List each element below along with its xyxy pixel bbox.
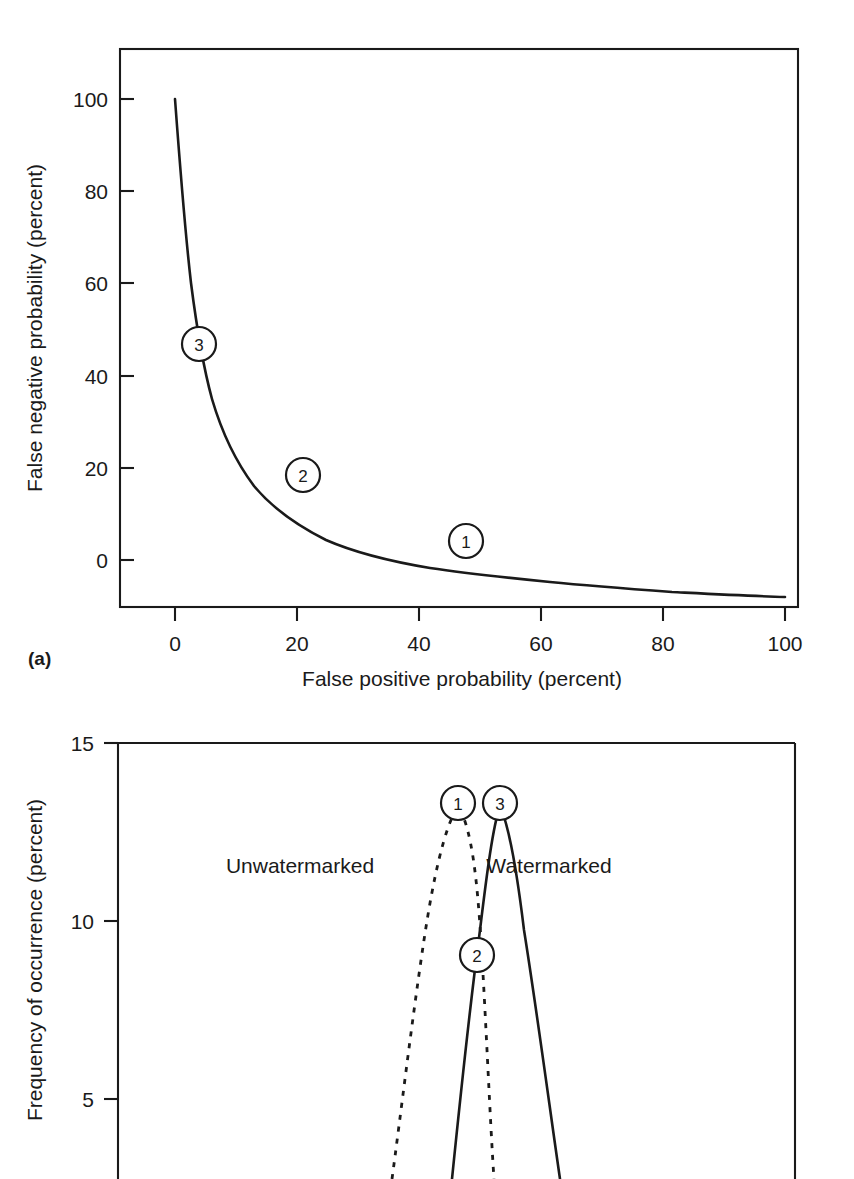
y-axis-title-b: Frequency of occurrence (percent) (23, 799, 46, 1121)
marker-1-label-b: 1 (453, 795, 462, 814)
unwatermarked-label: Unwatermarked (226, 854, 374, 877)
marker-2-panel-b: 2 (460, 938, 494, 972)
y-tick-label-b-5: 5 (82, 1088, 94, 1111)
marker-3-label-b: 3 (495, 795, 504, 814)
figure-container: 100 80 60 40 20 0 0 20 40 60 80 100 (0, 0, 854, 1179)
y-tick-label-b-15: 15 (71, 732, 94, 755)
watermarked-label: Watermarked (486, 854, 611, 877)
unwatermarked-curve (392, 806, 494, 1179)
y-tick-label-b-10: 10 (71, 910, 94, 933)
panel-b: 15 10 5 Frequency of occurrence (percent… (0, 0, 854, 1179)
marker-2-label-b: 2 (472, 947, 481, 966)
marker-3-panel-b: 3 (483, 786, 517, 820)
marker-1-panel-b: 1 (441, 786, 475, 820)
y-axis-ticks-b (104, 743, 118, 1099)
